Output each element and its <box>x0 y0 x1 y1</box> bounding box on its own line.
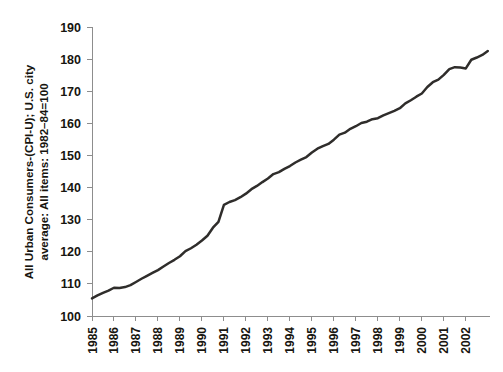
cpi-line-chart: 100110120130140150160170180190 198519861… <box>0 0 503 372</box>
x-tick-label: 1999 <box>393 327 407 354</box>
y-tick-label: 170 <box>60 85 81 99</box>
x-tick-label: 1987 <box>129 327 143 354</box>
y-tick-label: 140 <box>60 181 81 195</box>
y-axis-group: 100110120130140150160170180190 <box>60 21 92 324</box>
cpi-series-line <box>92 51 488 298</box>
y-tick-label: 110 <box>61 277 81 291</box>
x-tick-group: 1985198619871988198919901991199219931994… <box>86 316 474 354</box>
x-tick-label: 1991 <box>217 327 231 354</box>
x-tick-label: 1998 <box>371 327 385 354</box>
y-axis-title-line1: All Urban Consumers-(CPI-U); U.S. city <box>22 64 35 279</box>
y-axis-title: All Urban Consumers-(CPI-U); U.S. city a… <box>22 64 50 279</box>
x-tick-label: 1993 <box>261 327 275 354</box>
y-tick-label: 150 <box>60 149 81 163</box>
x-tick-label: 1990 <box>195 327 209 354</box>
y-tick-label: 120 <box>60 245 81 259</box>
y-tick-label: 190 <box>60 21 81 35</box>
x-tick-label: 1985 <box>86 327 100 354</box>
x-tick-label: 1989 <box>173 327 187 354</box>
x-tick-label: 1988 <box>151 327 165 354</box>
y-tick-label: 180 <box>60 53 81 67</box>
chart-canvas: 100110120130140150160170180190 198519861… <box>0 0 503 372</box>
x-tick-label: 1986 <box>107 327 121 354</box>
x-tick-label: 2000 <box>415 327 429 354</box>
x-tick-label: 1992 <box>239 327 253 354</box>
y-tick-label: 100 <box>60 310 81 324</box>
x-tick-label: 1994 <box>283 327 297 354</box>
y-tick-label: 160 <box>60 117 81 131</box>
y-axis-title-line2: average: All items: 1982–84=100 <box>37 83 50 260</box>
x-tick-label: 1996 <box>327 327 341 354</box>
x-axis-group: 1985198619871988198919901991199219931994… <box>86 316 491 354</box>
x-tick-label: 2001 <box>437 327 451 354</box>
y-tick-label: 130 <box>60 213 81 227</box>
x-tick-label: 1997 <box>349 327 363 354</box>
x-tick-label: 2002 <box>459 327 473 354</box>
y-tick-group: 100110120130140150160170180190 <box>60 21 92 324</box>
x-tick-label: 1995 <box>305 327 319 354</box>
